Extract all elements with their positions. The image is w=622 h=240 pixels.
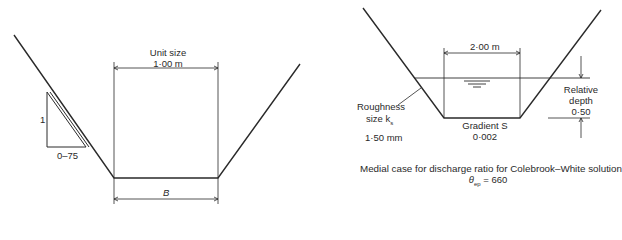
relative-depth-value: 0·50 — [558, 106, 604, 117]
roughness-label: Roughness — [357, 101, 405, 112]
slope-triangle — [47, 92, 89, 147]
relative-depth-label-2: depth — [558, 95, 604, 106]
slope-run-label: 0–75 — [57, 150, 78, 161]
unit-size-label: Unit size — [140, 47, 196, 58]
roughness-size-label: size ks — [366, 113, 393, 129]
gradient-value: 0·002 — [455, 131, 515, 142]
gradient-label: Gradient S — [455, 120, 515, 131]
top-width-label: 2·00 m — [470, 41, 500, 52]
unit-size-value: 1·00 m — [140, 58, 196, 69]
base-width-label: B — [163, 187, 169, 198]
slope-rise-label: 1 — [40, 114, 45, 125]
left-dimension-lines — [114, 62, 218, 204]
figure-caption: Medial case for discharge ratio for Cole… — [360, 163, 616, 174]
relative-depth-label: Relative — [558, 84, 604, 95]
roughness-value: 1·50 mm — [365, 132, 402, 143]
theta-equation: θep = 660 — [440, 174, 536, 190]
